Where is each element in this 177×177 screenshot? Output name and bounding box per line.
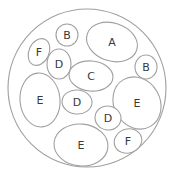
region-label: D bbox=[104, 112, 112, 125]
region-label: D bbox=[55, 58, 63, 71]
region-label: E bbox=[37, 94, 44, 107]
region-label: A bbox=[108, 36, 116, 49]
region-d-upper: D bbox=[47, 49, 71, 79]
region-b-top: B bbox=[56, 24, 78, 46]
region-label: C bbox=[87, 70, 95, 83]
region-label: D bbox=[73, 96, 81, 109]
set-diagram: ABBFDCEDEDEF bbox=[0, 0, 177, 177]
region-label: F bbox=[125, 135, 131, 148]
region-label: B bbox=[63, 29, 71, 42]
region-label: B bbox=[142, 61, 150, 74]
region-b-right: B bbox=[135, 55, 157, 79]
region-label: F bbox=[36, 46, 42, 59]
diagram-canvas: ABBFDCEDEDEF bbox=[0, 0, 177, 177]
region-label: E bbox=[134, 97, 141, 110]
region-label: E bbox=[78, 139, 85, 152]
